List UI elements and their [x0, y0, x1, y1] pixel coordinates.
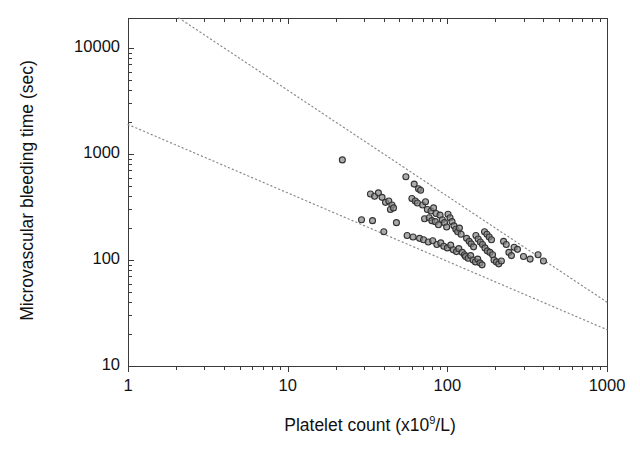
data-point [422, 216, 428, 222]
data-point [381, 229, 387, 235]
data-point [367, 191, 373, 197]
x-tick-minor [440, 366, 441, 370]
data-point [431, 205, 437, 211]
data-point [482, 229, 488, 235]
scatter-plot-figure: Microvascular bleeding time (sec) Platel… [0, 0, 640, 452]
x-tick-minor-top [412, 18, 413, 22]
data-point [456, 246, 462, 252]
x-tick-major-top [288, 18, 289, 24]
x-tick-minor-top [399, 18, 400, 22]
x-tick-major-top [128, 18, 129, 24]
x-tick-minor [364, 366, 365, 370]
data-point [484, 248, 490, 254]
data-point [409, 196, 415, 202]
x-tick-minor [252, 366, 253, 370]
data-point [540, 258, 546, 264]
data-point [498, 258, 504, 264]
data-point [511, 244, 517, 250]
y-tick-minor [128, 72, 132, 73]
data-point [421, 237, 427, 243]
data-point [453, 249, 459, 255]
data-point [428, 208, 434, 214]
x-tick-minor-top [176, 18, 177, 22]
data-point [475, 256, 481, 262]
data-point [468, 253, 474, 259]
y-tick-major [128, 260, 134, 261]
data-point [466, 238, 472, 244]
data-point [464, 235, 470, 241]
x-tick-label: 1 [78, 376, 178, 395]
x-tick-minor [263, 366, 264, 370]
data-point [514, 246, 520, 252]
data-point [424, 206, 430, 212]
data-point [442, 220, 448, 226]
data-point [389, 202, 395, 208]
x-axis-title: Platelet count (x109/L) [160, 414, 580, 436]
x-tick-minor-top [592, 18, 593, 22]
data-point [430, 238, 436, 244]
x-tick-minor-top [423, 18, 424, 22]
data-point [390, 205, 396, 211]
data-point [453, 226, 459, 232]
x-tick-minor [524, 366, 525, 370]
y-axis-line [128, 18, 129, 366]
data-point-group [339, 157, 546, 268]
data-point [527, 256, 533, 262]
data-point [471, 244, 477, 250]
x-tick-label: 1000 [557, 376, 640, 395]
y-tick-minor [128, 270, 132, 271]
x-tick-minor-top [384, 18, 385, 22]
data-point [486, 234, 492, 240]
x-tick-minor-top [263, 18, 264, 22]
data-point [432, 219, 438, 225]
x-tick-major [607, 366, 608, 372]
data-point [493, 259, 499, 265]
y-tick-minor [128, 265, 132, 266]
data-point [479, 262, 485, 268]
data-point [473, 233, 479, 239]
y-axis-title: Microvascular bleeding time (sec) [17, 26, 38, 356]
data-point [448, 242, 454, 248]
data-point [458, 231, 464, 237]
x-tick-minor-top [543, 18, 544, 22]
y-tick-minor [128, 122, 132, 123]
data-point [425, 239, 431, 245]
data-point [477, 239, 483, 245]
reference-line-upper-bound [179, 18, 607, 302]
data-point [387, 206, 393, 212]
data-point [451, 223, 457, 229]
data-point [477, 260, 483, 266]
x-axis-title-main: Platelet count (x10 [284, 415, 429, 435]
data-point [411, 181, 417, 187]
data-point [439, 217, 445, 223]
x-tick-minor-top [600, 18, 601, 22]
reference-lines [128, 18, 607, 330]
y-tick-minor [128, 334, 132, 335]
y-tick-minor [128, 209, 132, 210]
y-tick-minor [128, 164, 132, 165]
x-tick-minor-top [572, 18, 573, 22]
data-point [521, 253, 527, 259]
x-tick-minor [582, 366, 583, 370]
data-point [482, 245, 488, 251]
reference-line-lower-bound [128, 124, 607, 329]
data-point [370, 218, 376, 224]
data-point [488, 237, 494, 243]
top-frame-line [128, 18, 607, 19]
x-tick-minor-top [252, 18, 253, 22]
data-point [463, 253, 469, 259]
data-point [375, 190, 381, 196]
data-point [420, 202, 426, 208]
data-point [465, 255, 471, 261]
x-tick-minor [412, 366, 413, 370]
data-point [437, 212, 443, 218]
x-tick-minor [224, 366, 225, 370]
y-tick-minor [128, 302, 132, 303]
x-tick-minor-top [280, 18, 281, 22]
data-point [450, 247, 456, 253]
x-tick-minor [432, 366, 433, 370]
x-tick-minor [176, 366, 177, 370]
x-tick-minor [559, 366, 560, 370]
y-tick-minor [128, 276, 132, 277]
x-axis-line [128, 366, 607, 367]
